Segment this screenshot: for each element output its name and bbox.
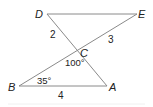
angle-bca: 100° xyxy=(65,57,85,68)
length-dc: 2 xyxy=(50,29,56,40)
segment-da xyxy=(47,14,107,86)
point-label-e: E xyxy=(138,8,146,20)
point-label-b: B xyxy=(8,81,15,93)
angle-cba: 35° xyxy=(37,75,52,86)
point-label-a: A xyxy=(108,81,116,93)
length-ce: 3 xyxy=(108,34,114,45)
length-ba: 4 xyxy=(58,90,64,101)
triangle-diagram: D E C B A 2 3 4 100° 35° xyxy=(0,0,153,107)
point-label-d: D xyxy=(35,8,43,20)
